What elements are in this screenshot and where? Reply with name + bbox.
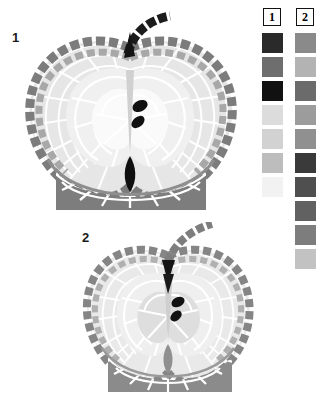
swatch-1-3 bbox=[262, 81, 283, 101]
figure-1-label: 1 bbox=[12, 31, 19, 44]
legend-column-1-header: 1 bbox=[263, 8, 281, 26]
swatch-2-1 bbox=[295, 33, 316, 53]
apple-1-svg bbox=[18, 10, 243, 210]
legend-column-2-header: 2 bbox=[296, 8, 314, 26]
swatch-2-7 bbox=[295, 177, 316, 197]
swatch-2-10 bbox=[295, 249, 316, 269]
swatch-1-5 bbox=[262, 129, 283, 149]
legend-column-2-swatches bbox=[291, 33, 319, 269]
legend-column-1-swatches bbox=[258, 33, 286, 197]
swatch-1-2 bbox=[262, 57, 283, 77]
figure-2-label: 2 bbox=[82, 231, 89, 244]
swatch-2-3 bbox=[295, 81, 316, 101]
swatch-1-1 bbox=[262, 33, 283, 53]
swatch-2-4 bbox=[295, 105, 316, 125]
illustration-stage: 1 bbox=[0, 0, 321, 406]
swatch-2-8 bbox=[295, 201, 316, 221]
color-legend: 1 2 bbox=[255, 8, 321, 316]
swatch-1-6 bbox=[262, 153, 283, 173]
swatch-1-4 bbox=[262, 105, 283, 125]
legend-column-1: 1 bbox=[258, 8, 286, 201]
apple-cross-section-figure-2: 2 bbox=[78, 222, 258, 392]
apple-2-svg bbox=[78, 222, 258, 392]
swatch-2-9 bbox=[295, 225, 316, 245]
swatch-1-7 bbox=[262, 177, 283, 197]
legend-column-2: 2 bbox=[291, 8, 319, 273]
apple-cross-section-figure-1: 1 bbox=[18, 10, 243, 210]
swatch-2-6 bbox=[295, 153, 316, 173]
swatch-2-2 bbox=[295, 57, 316, 77]
swatch-2-5 bbox=[295, 129, 316, 149]
